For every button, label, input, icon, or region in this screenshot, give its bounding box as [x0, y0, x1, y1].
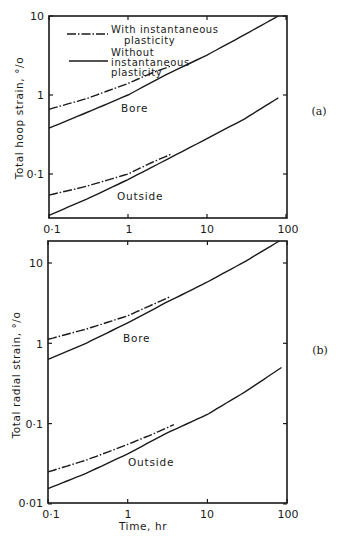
series-line-0 [48, 297, 170, 340]
b-ytick-0.1: 0·1 [26, 418, 44, 431]
series-line-3 [49, 98, 278, 215]
panel-a-label: (a) [311, 105, 326, 118]
panel-a-ticks [49, 16, 287, 218]
legend-with-line1: With instantaneous [111, 24, 219, 35]
a-ytick-10: 10 [30, 10, 44, 23]
series-line-2 [49, 154, 172, 195]
figure: 10 1 0·1 0·1 1 10 100 Total hoop strain,… [0, 0, 342, 539]
b-ytick-0.01: 0·01 [19, 497, 44, 510]
a-xtick-0.1: 0·1 [43, 223, 61, 236]
b-ytick-1: 1 [36, 338, 43, 351]
panel-a-frame [49, 16, 287, 218]
b-bore-label: Bore [123, 332, 150, 344]
a-ytick-0.1: 0·1 [27, 168, 45, 181]
b-xlabel: Time, hr [118, 520, 167, 532]
a-xtick-100: 100 [278, 223, 299, 236]
a-ylabel: Total hoop strain, °/o [13, 57, 25, 180]
b-xtick-0.1: 0·1 [42, 508, 60, 521]
b-xtick-10: 10 [200, 508, 214, 521]
a-bore-label: Bore [121, 102, 148, 114]
a-outside-label: Outside [117, 190, 163, 202]
panel-b-label: (b) [312, 344, 328, 357]
a-ytick-1: 1 [37, 89, 44, 102]
a-xtick-10: 10 [200, 223, 214, 236]
legend-with-line2: plasticity [124, 35, 175, 46]
b-ytick-10: 10 [29, 257, 43, 270]
b-xtick-100: 100 [278, 508, 299, 521]
legend-without-line3: plasticity [111, 67, 162, 78]
panel-b-lines [48, 241, 282, 489]
a-xtick-1: 1 [126, 223, 133, 236]
b-outside-label: Outside [128, 456, 174, 468]
b-ylabel: Total radial strain, °/o [10, 311, 22, 439]
